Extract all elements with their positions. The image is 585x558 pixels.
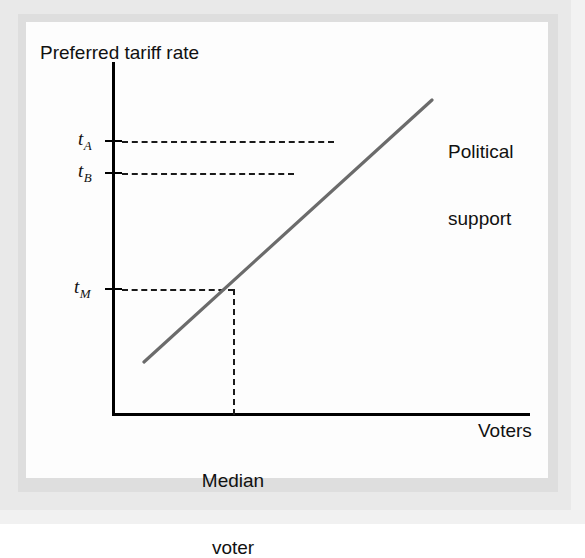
y-tick-label-tb-sub: B xyxy=(83,170,91,185)
y-tick-label-tm-sub: M xyxy=(79,286,90,301)
series-label-line-1: Political xyxy=(448,141,513,163)
median-label-line-1: Median xyxy=(181,470,285,492)
y-axis-label: Preferred tariff rate xyxy=(40,42,199,64)
median-label-line-2: voter xyxy=(181,537,285,558)
series-label-political-support: Political support xyxy=(448,96,513,275)
x-tick-label-median-voter: Median voter xyxy=(181,425,285,558)
y-tick-label-ta: tA xyxy=(78,128,92,154)
plot-area: tA tB tM Preferred tariff rate Voters Po… xyxy=(26,22,548,478)
x-axis-label: Voters xyxy=(478,420,532,442)
series-label-line-2: support xyxy=(448,208,513,230)
y-tick-label-ta-sub: A xyxy=(83,138,91,153)
scan-edge-right xyxy=(571,0,585,524)
y-tick-label-tb: tB xyxy=(78,160,92,186)
scan-edge-bottom xyxy=(0,510,585,524)
figure-panel: tA tB tM Preferred tariff rate Voters Po… xyxy=(26,22,548,478)
y-tick-label-tm: tM xyxy=(74,276,91,302)
